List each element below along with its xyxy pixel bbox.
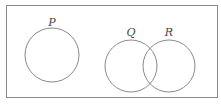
set-q-label: Q [126, 26, 135, 39]
set-r-circle [143, 40, 195, 92]
set-p-label: P [47, 16, 56, 29]
venn-diagram: P Q R [0, 0, 221, 108]
set-q-circle [105, 40, 157, 92]
set-p-circle [25, 28, 79, 82]
set-r-label: R [164, 26, 173, 39]
